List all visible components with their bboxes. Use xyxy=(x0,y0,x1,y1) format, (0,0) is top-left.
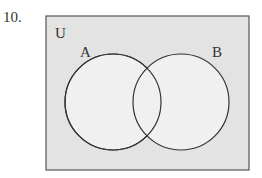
universe-label: U xyxy=(55,25,66,41)
set-b-label: B xyxy=(212,44,222,60)
set-a-label: A xyxy=(80,44,91,60)
venn-diagram: U A B xyxy=(0,0,262,178)
